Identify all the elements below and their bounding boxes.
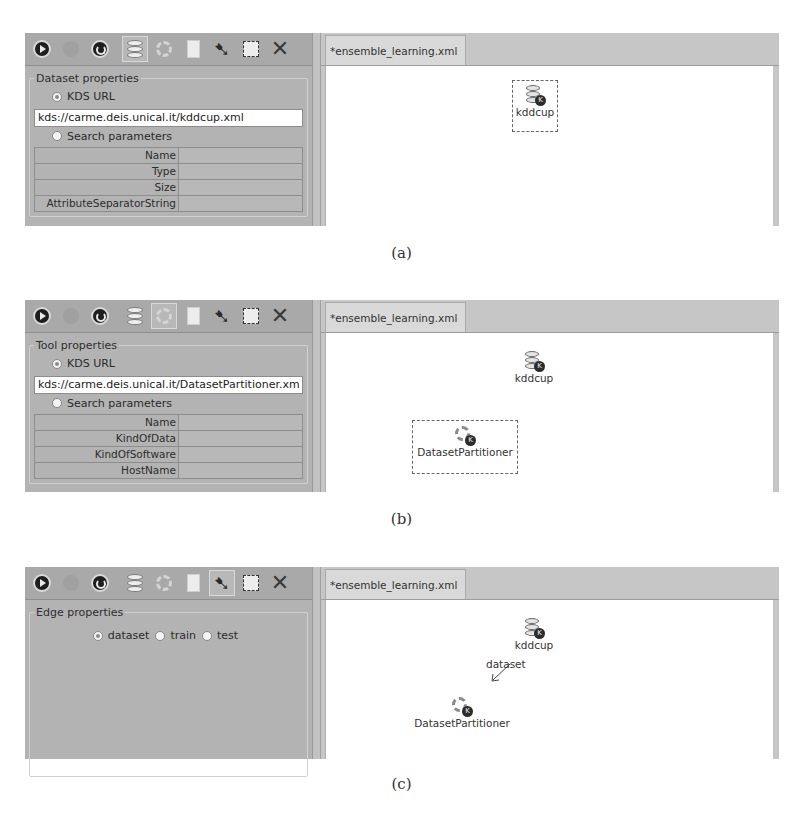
edge-properties: Edge properties dataset train test <box>29 606 308 777</box>
edge-option-dataset[interactable]: dataset <box>93 629 150 642</box>
edge-option-label: test <box>217 629 238 642</box>
node-dataset-partitioner[interactable]: K DatasetPartitioner <box>410 692 514 740</box>
dataset-tool-button[interactable] <box>122 303 148 329</box>
workflow-canvas[interactable]: K kddcup K DatasetPartitioner <box>325 333 773 492</box>
split-divider[interactable] <box>313 300 321 492</box>
param-value[interactable] <box>179 414 303 430</box>
left-pane: ➷ ✕ Dataset properties KDS URL Search pa… <box>25 33 313 226</box>
param-value[interactable] <box>179 462 303 478</box>
document-button[interactable] <box>180 570 206 596</box>
edge-option-test[interactable]: test <box>202 629 238 642</box>
kds-url-radio[interactable] <box>52 92 62 102</box>
run-button[interactable] <box>29 303 55 329</box>
delete-icon: ✕ <box>271 572 289 594</box>
document-icon <box>187 574 200 592</box>
search-parameters-radio[interactable] <box>52 131 62 141</box>
refresh-button[interactable] <box>87 303 113 329</box>
kds-url-radio[interactable] <box>52 359 62 369</box>
edge-tool-button[interactable]: ➷ <box>209 303 235 329</box>
run-button[interactable] <box>29 36 55 62</box>
kds-url-input[interactable] <box>34 109 303 127</box>
node-kddcup[interactable]: K kddcup <box>512 347 556 395</box>
search-parameters-option[interactable]: Search parameters <box>34 394 303 413</box>
edge-arrow-icon: ➷ <box>214 39 231 59</box>
dataset-tool-button[interactable] <box>122 36 148 62</box>
param-value[interactable] <box>179 179 303 195</box>
delete-icon: ✕ <box>271 38 289 60</box>
document-icon <box>187 40 200 58</box>
edge-radio-test[interactable] <box>202 631 212 641</box>
stop-button[interactable] <box>58 570 84 596</box>
dataset-icon <box>127 307 143 325</box>
tool-button[interactable] <box>151 36 177 62</box>
edge-tool-button[interactable]: ➷ <box>209 36 235 62</box>
caption-b: (b) <box>0 510 803 528</box>
workflow-canvas[interactable]: K kddcup <box>325 66 773 226</box>
edge-option-train[interactable]: train <box>155 629 196 642</box>
tool-button[interactable] <box>151 303 177 329</box>
tab-bar: *ensemble_learning.xml <box>321 33 779 66</box>
run-button[interactable] <box>29 570 55 596</box>
tool-node-icon: K <box>451 695 473 717</box>
select-button[interactable] <box>238 36 264 62</box>
refresh-icon <box>91 574 109 592</box>
edge-option-label: dataset <box>108 629 150 642</box>
table-row: Name <box>35 147 303 163</box>
table-row: KindOfData <box>35 430 303 446</box>
dataset-node-icon: K <box>524 84 546 106</box>
param-key: HostName <box>35 462 179 478</box>
stop-icon <box>63 308 79 324</box>
stop-button[interactable] <box>58 303 84 329</box>
table-row: AttributeSeparatorString <box>35 195 303 211</box>
edge-radio-train[interactable] <box>155 631 165 641</box>
kds-url-label: KDS URL <box>67 357 115 370</box>
select-icon <box>243 308 259 324</box>
tab-bar: *ensemble_learning.xml <box>321 567 779 600</box>
stop-button[interactable] <box>58 36 84 62</box>
workflow-canvas[interactable]: K kddcup dataset K DatasetPartitioner <box>325 600 773 759</box>
param-value[interactable] <box>179 446 303 462</box>
play-icon <box>33 40 51 58</box>
node-label: DatasetPartitioner <box>414 717 510 729</box>
node-label: kddcup <box>515 372 554 384</box>
param-value[interactable] <box>179 147 303 163</box>
tab-ensemble-learning[interactable]: *ensemble_learning.xml <box>325 302 466 332</box>
kds-url-option[interactable]: KDS URL <box>34 354 303 373</box>
select-button[interactable] <box>238 303 264 329</box>
node-kddcup[interactable]: K kddcup <box>512 80 558 132</box>
refresh-button[interactable] <box>87 36 113 62</box>
param-value[interactable] <box>179 163 303 179</box>
tool-button[interactable] <box>151 570 177 596</box>
param-value[interactable] <box>179 195 303 211</box>
gear-icon <box>156 41 172 57</box>
split-divider[interactable] <box>313 33 321 226</box>
node-dataset-partitioner[interactable]: K DatasetPartitioner <box>412 420 518 474</box>
node-label: DatasetPartitioner <box>417 446 513 458</box>
edge-tool-button[interactable]: ➷ <box>209 570 235 596</box>
split-divider[interactable] <box>313 567 321 759</box>
delete-button[interactable]: ✕ <box>267 303 293 329</box>
document-button[interactable] <box>180 303 206 329</box>
select-button[interactable] <box>238 570 264 596</box>
edge-radio-dataset[interactable] <box>93 631 103 641</box>
document-button[interactable] <box>180 36 206 62</box>
dataset-tool-button[interactable] <box>122 570 148 596</box>
delete-button[interactable]: ✕ <box>267 570 293 596</box>
delete-button[interactable]: ✕ <box>267 36 293 62</box>
toolbar: ➷ ✕ <box>25 567 312 600</box>
node-label: kddcup <box>516 106 555 118</box>
tab-ensemble-learning[interactable]: *ensemble_learning.xml <box>325 569 466 599</box>
dataset-icon <box>127 40 143 58</box>
param-value[interactable] <box>179 430 303 446</box>
edge-label[interactable]: dataset <box>486 658 526 670</box>
kds-url-option[interactable]: KDS URL <box>34 87 303 106</box>
search-parameters-option[interactable]: Search parameters <box>34 127 303 146</box>
toolbar: ➷ ✕ <box>25 300 312 333</box>
edge-arrow-icon: ➷ <box>214 573 231 593</box>
tab-ensemble-learning[interactable]: *ensemble_learning.xml <box>325 35 466 65</box>
kds-url-input[interactable] <box>34 376 303 394</box>
refresh-button[interactable] <box>87 570 113 596</box>
search-parameters-radio[interactable] <box>52 398 62 408</box>
panel-c: ➷ ✕ Edge properties dataset train test *… <box>25 567 779 759</box>
table-row: HostName <box>35 462 303 478</box>
